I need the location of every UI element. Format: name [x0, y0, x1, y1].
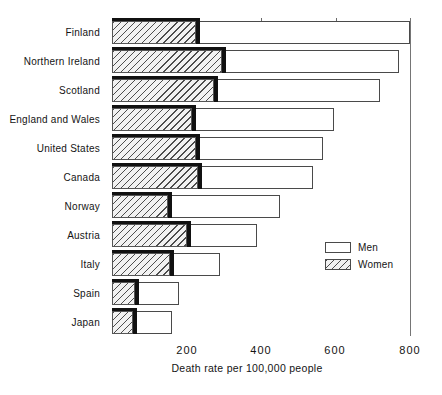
bar-women-england-and-wales [112, 108, 192, 131]
legend-label-men: Men [358, 242, 378, 253]
x-axis-title-text: Death rate per 100,000 people [171, 362, 322, 374]
bar-row-scotland: Scotland [0, 76, 442, 105]
xtick-label-800: 800 [399, 344, 420, 356]
legend-swatch-men-icon [325, 242, 351, 253]
legend-item-men: Men [325, 240, 393, 255]
bar-women-italy [112, 253, 170, 276]
bar-women-spain [112, 282, 135, 305]
legend-swatch-women-icon [325, 259, 351, 270]
category-label-spain: Spain [73, 279, 100, 308]
bar-row-england-and-wales: England and Wales [0, 105, 442, 134]
bar-row-canada: Canada [0, 163, 442, 192]
category-label-finland: Finland [65, 18, 100, 47]
x-axis-title: Death rate per 100,000 people [0, 362, 442, 374]
bar-row-spain: Spain [0, 279, 442, 308]
category-label-canada: Canada [63, 163, 100, 192]
bar-women-norway [112, 195, 168, 218]
bar-row-japan: Japan [0, 308, 442, 337]
xtick-label-400: 400 [250, 344, 271, 356]
legend-item-women: Women [325, 257, 393, 272]
bar-row-northern-ireland: Northern Ireland [0, 47, 442, 76]
xtick-label-200: 200 [176, 344, 197, 356]
bar-women-scotland [112, 79, 214, 102]
bar-women-finland [112, 21, 196, 44]
category-label-scotland: Scotland [59, 76, 100, 105]
category-label-japan: Japan [72, 308, 101, 337]
category-label-united-states: United States [37, 134, 100, 163]
bar-women-united-states [112, 137, 196, 160]
bar-women-austria [112, 224, 187, 247]
xtick-label-600: 600 [324, 344, 345, 356]
bar-women-japan [112, 311, 133, 334]
bar-chart: Finland Northern Ireland Scotland Englan… [0, 0, 442, 395]
chart-legend: Men Women [325, 240, 393, 274]
category-label-italy: Italy [80, 250, 100, 279]
legend-label-women: Women [358, 259, 393, 270]
bar-row-norway: Norway [0, 192, 442, 221]
bar-women-northern-ireland [112, 50, 222, 73]
bar-row-united-states: United States [0, 134, 442, 163]
bar-row-finland: Finland [0, 18, 442, 47]
category-label-northern-ireland: Northern Ireland [24, 47, 100, 76]
category-label-england-and-wales: England and Wales [9, 105, 100, 134]
category-label-norway: Norway [65, 192, 100, 221]
bar-women-canada [112, 166, 198, 189]
category-label-austria: Austria [67, 221, 100, 250]
